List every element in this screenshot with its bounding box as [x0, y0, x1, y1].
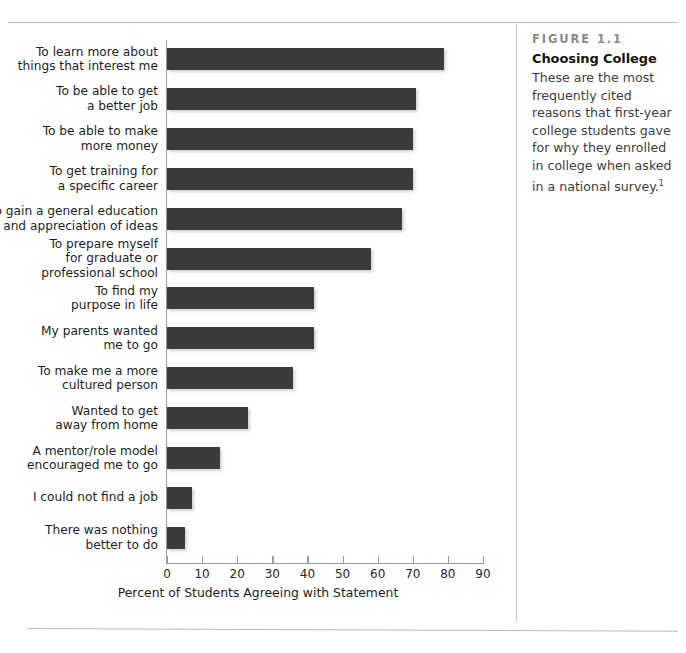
- x-axis-tick: [378, 556, 379, 563]
- x-axis-tick: [202, 556, 203, 563]
- bar: [167, 327, 314, 349]
- column-divider: [516, 24, 517, 622]
- x-axis-tick: [237, 556, 238, 563]
- category-label: To find my purpose in life: [0, 284, 158, 313]
- bar: [167, 168, 413, 190]
- category-label: A mentor/role model encouraged me to go: [0, 444, 158, 473]
- bar: [167, 527, 185, 549]
- category-label: To prepare myself for graduate or profes…: [0, 237, 158, 281]
- x-axis-tick-label: 40: [300, 567, 315, 581]
- category-label: My parents wanted me to go: [0, 324, 158, 353]
- category-label: To make me a more cultured person: [0, 364, 158, 393]
- bar: [167, 447, 220, 469]
- category-label: To get training for a specific career: [0, 164, 158, 193]
- x-axis-tick: [307, 556, 308, 563]
- x-axis-tick-label: 90: [475, 567, 490, 581]
- category-label: To learn more about things that interest…: [0, 45, 158, 74]
- x-axis-tick-label: 50: [335, 567, 350, 581]
- bar: [167, 88, 416, 110]
- bar-chart: To learn more about things that interest…: [0, 0, 516, 653]
- x-axis-tick-label: 60: [370, 567, 385, 581]
- x-axis-tick: [413, 556, 414, 563]
- figure-caption-block: FIGURE 1.1 Choosing College These are th…: [532, 32, 678, 195]
- x-axis-tick: [343, 556, 344, 563]
- figure-footnote-marker: 1: [659, 179, 664, 188]
- x-axis-tick-label: 0: [163, 567, 171, 581]
- figure-description-text: These are the most frequently cited reas…: [532, 70, 672, 194]
- category-label: To be able to make more money: [0, 124, 158, 153]
- bar: [167, 367, 293, 389]
- category-label: There was nothing better to do: [0, 523, 158, 552]
- category-label: To be able to get a better job: [0, 84, 158, 113]
- x-axis-title: Percent of Students Agreeing with Statem…: [0, 585, 516, 600]
- x-axis-tick: [167, 556, 168, 563]
- figure-title: Choosing College: [532, 51, 678, 66]
- x-axis-tick-label: 10: [194, 567, 209, 581]
- x-axis-tick: [483, 556, 484, 563]
- bar: [167, 407, 248, 429]
- x-axis-tick-label: 20: [230, 567, 245, 581]
- x-axis-line: [166, 563, 484, 564]
- category-label: I could not find a job: [0, 490, 158, 505]
- category-label: To gain a general education and apprecia…: [0, 204, 158, 233]
- x-axis-tick-label: 70: [405, 567, 420, 581]
- bar: [167, 128, 413, 150]
- bar: [167, 48, 444, 70]
- bar: [167, 487, 192, 509]
- bar: [167, 248, 371, 270]
- x-axis-tick-label: 30: [265, 567, 280, 581]
- category-label: Wanted to get away from home: [0, 404, 158, 433]
- x-axis-tick: [448, 556, 449, 563]
- x-axis-tick: [272, 556, 273, 563]
- figure-description: These are the most frequently cited reas…: [532, 69, 678, 195]
- bar: [167, 208, 402, 230]
- bar: [167, 287, 314, 309]
- figure-number: FIGURE 1.1: [532, 32, 678, 46]
- x-axis-tick-label: 80: [440, 567, 455, 581]
